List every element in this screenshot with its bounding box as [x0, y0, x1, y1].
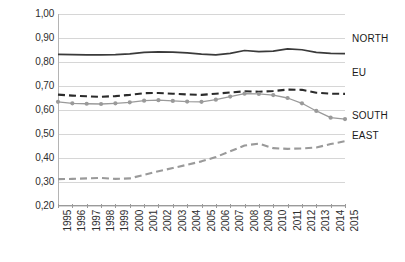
y-tick-label: 0,80	[35, 57, 54, 67]
x-tick-mark	[101, 204, 102, 208]
data-point-south	[156, 98, 160, 102]
data-point-south	[113, 101, 117, 105]
y-tick-label: 0,90	[35, 33, 54, 43]
x-tick-label: 2008	[249, 210, 260, 231]
y-tick-label: 0,50	[35, 129, 54, 139]
data-point-south	[142, 99, 146, 103]
x-tick-mark	[87, 204, 88, 208]
x-tick-label: 1995	[62, 210, 73, 231]
x-tick-label: 2014	[335, 210, 346, 231]
x-tick-label: 1997	[91, 210, 102, 231]
x-tick-label: 2015	[349, 210, 360, 231]
series-label-east: EAST	[352, 130, 379, 141]
x-axis-tick-labels: 1995199619971998199920002001200220032004…	[58, 208, 345, 262]
x-tick-mark	[302, 204, 303, 208]
x-tick-mark	[144, 204, 145, 208]
x-tick-mark	[130, 204, 131, 208]
series-line-east	[58, 141, 345, 179]
x-tick-label: 2013	[320, 210, 331, 231]
x-tick-mark	[273, 204, 274, 208]
series-line-north	[58, 49, 345, 55]
y-tick-label: 0,20	[35, 201, 54, 211]
data-point-south	[56, 100, 60, 104]
x-tick-label: 2011	[292, 210, 303, 231]
x-tick-mark	[158, 204, 159, 208]
x-tick-label: 2000	[134, 210, 145, 231]
data-point-south	[171, 99, 175, 103]
data-point-south	[329, 116, 333, 120]
data-point-south	[185, 100, 189, 104]
x-tick-label: 2003	[177, 210, 188, 231]
series-line-south	[58, 94, 345, 119]
x-tick-mark	[331, 204, 332, 208]
data-point-south	[228, 94, 232, 98]
data-point-south	[242, 92, 246, 96]
x-tick-mark	[173, 204, 174, 208]
x-tick-label: 2007	[234, 210, 245, 231]
x-tick-label: 2006	[220, 210, 231, 231]
x-tick-mark	[202, 204, 203, 208]
x-tick-mark	[245, 204, 246, 208]
x-tick-mark	[72, 204, 73, 208]
x-tick-label: 2009	[263, 210, 274, 231]
data-point-south	[85, 102, 89, 106]
x-tick-mark	[259, 204, 260, 208]
plot-area	[58, 14, 345, 206]
data-point-south	[314, 109, 318, 113]
x-tick-mark	[345, 204, 346, 208]
x-tick-label: 1998	[105, 210, 116, 231]
x-tick-mark	[230, 204, 231, 208]
x-tick-mark	[58, 204, 59, 208]
y-tick-label: 0,30	[35, 177, 54, 187]
x-tick-label: 2001	[148, 210, 159, 231]
x-tick-label: 2005	[206, 210, 217, 231]
data-point-south	[257, 92, 261, 96]
y-tick-label: 0,60	[35, 105, 54, 115]
data-point-south	[70, 101, 74, 105]
series-layer	[58, 14, 345, 206]
x-tick-mark	[288, 204, 289, 208]
x-tick-label: 2012	[306, 210, 317, 231]
y-tick-label: 0,40	[35, 153, 54, 163]
y-tick-label: 0,70	[35, 81, 54, 91]
x-tick-mark	[187, 204, 188, 208]
series-label-south: SOUTH	[352, 110, 388, 121]
x-tick-label: 1996	[76, 210, 87, 231]
x-tick-mark	[115, 204, 116, 208]
x-tick-mark	[216, 204, 217, 208]
data-point-south	[128, 100, 132, 104]
x-tick-label: 2004	[191, 210, 202, 231]
series-label-north: NORTH	[352, 33, 388, 44]
data-point-south	[214, 98, 218, 102]
data-point-south	[271, 93, 275, 97]
x-tick-label: 1999	[119, 210, 130, 231]
series-line-eu	[58, 90, 345, 97]
line-chart: 1,000,900,800,700,600,500,400,300,20 199…	[0, 0, 405, 262]
data-point-south	[286, 96, 290, 100]
data-point-south	[300, 101, 304, 105]
data-point-south	[99, 102, 103, 106]
data-point-south	[199, 100, 203, 104]
x-tick-mark	[316, 204, 317, 208]
y-tick-label: 1,00	[35, 9, 54, 19]
x-tick-label: 2002	[162, 210, 173, 231]
series-label-eu: EU	[352, 67, 366, 78]
data-point-south	[343, 117, 347, 121]
x-tick-label: 2010	[277, 210, 288, 231]
